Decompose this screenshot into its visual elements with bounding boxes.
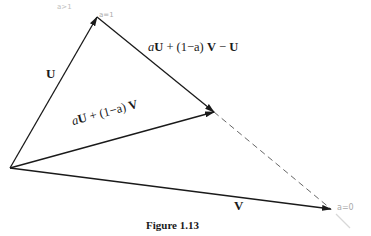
label-diff: aU + (1−a) V − U: [148, 40, 238, 55]
vector-v-arrow: [10, 168, 331, 209]
annotation-a-equals-1: a=1: [99, 11, 114, 19]
figure-caption: Figure 1.13: [146, 219, 199, 231]
figure-1-13: U aU + (1−a) V − U aU + (1−a) V V a>1 a=…: [0, 0, 371, 236]
vector-combo-arrow: [10, 112, 214, 168]
label-diff-v: V: [207, 40, 216, 54]
dashed-segment: [214, 112, 331, 209]
annotation-a-equals-0: a=0: [337, 203, 354, 212]
label-diff-minus: −: [216, 40, 229, 54]
vector-diff-arrow: [97, 17, 214, 112]
label-diff-mid: + (1−a): [163, 40, 207, 54]
vector-u-arrow: [10, 17, 97, 168]
label-v: V: [234, 198, 243, 214]
vector-diagram: [0, 0, 371, 236]
label-diff-u2: U: [229, 40, 238, 54]
label-diff-u: U: [154, 40, 163, 54]
faint-pencil-mark: [336, 214, 350, 228]
label-u: U: [46, 66, 55, 82]
annotation-top-faint: a>1: [57, 3, 72, 11]
